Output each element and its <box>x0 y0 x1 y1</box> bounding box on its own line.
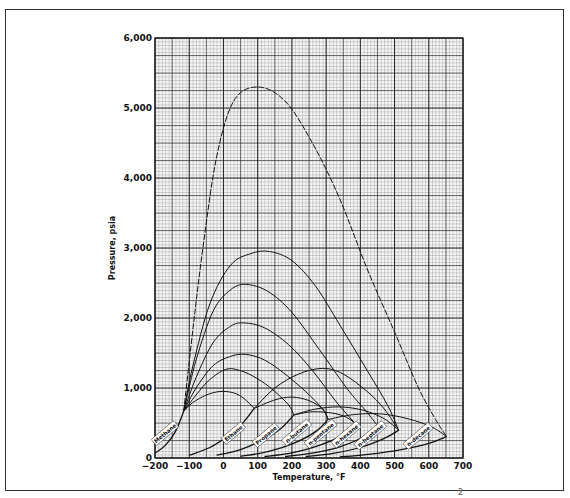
x-tick-label: 700 <box>454 461 473 471</box>
y-tick-label: 6,000 <box>124 33 152 43</box>
x-tick-label: 400 <box>351 461 370 471</box>
x-tick-label: 0 <box>220 461 226 471</box>
x-tick-label: 300 <box>317 461 336 471</box>
phase-diagram-chart: MethaneEthanePropanen-butanen-pentanen-h… <box>0 0 570 498</box>
y-tick-label: 2,000 <box>124 313 152 323</box>
y-tick-label: 1,000 <box>124 383 152 393</box>
x-tick-label: −200 <box>142 461 168 471</box>
footer-fragment: 2 <box>458 488 463 497</box>
x-tick-label: −100 <box>176 461 202 471</box>
x-tick-label: 500 <box>385 461 404 471</box>
x-axis-label: Temperature, °F <box>273 473 346 482</box>
y-tick-label: 3,000 <box>124 243 152 253</box>
x-tick-label: 100 <box>248 461 267 471</box>
x-tick-label: 200 <box>283 461 302 471</box>
y-tick-label: 5,000 <box>124 103 152 113</box>
y-axis-label: Pressure, psia <box>108 216 117 280</box>
x-axis-ticks: −200−1000100200300400500600700 <box>142 461 473 471</box>
x-tick-label: 600 <box>419 461 438 471</box>
y-tick-label: 4,000 <box>124 173 152 183</box>
y-axis-ticks: 01,0002,0003,0004,0005,0006,000 <box>124 33 152 463</box>
